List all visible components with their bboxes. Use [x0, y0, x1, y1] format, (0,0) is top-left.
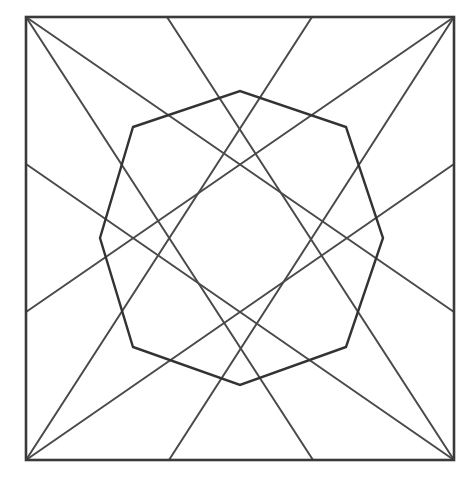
corner-lines	[26, 17, 454, 460]
inner-octagon	[100, 91, 383, 385]
diagram-canvas	[0, 0, 476, 486]
geometric-figure	[0, 0, 476, 486]
outer-square	[26, 17, 454, 460]
